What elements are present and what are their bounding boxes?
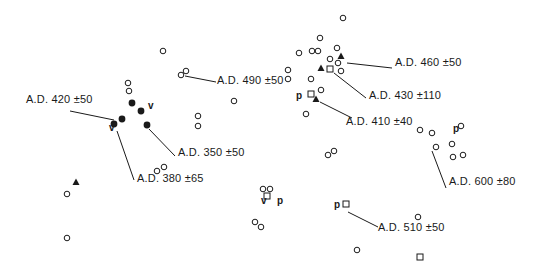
open-circle-icon: [160, 48, 166, 54]
date-label: A.D. 380 ±65: [137, 172, 204, 184]
open-circle-icon: [417, 127, 423, 133]
open-circle-icon: [340, 15, 346, 21]
site-type-letter: v: [109, 123, 115, 133]
leader-line: [334, 73, 366, 98]
leader-line: [149, 129, 175, 156]
open-circle-icon: [309, 48, 315, 54]
open-circle-icon: [195, 123, 201, 129]
open-circle-icon: [429, 130, 435, 136]
open-circle-icon: [317, 35, 323, 41]
leader-line: [70, 111, 114, 120]
site-type-letter: v: [261, 196, 267, 206]
open-square-icon: [417, 254, 423, 260]
open-circle-icon: [460, 152, 466, 158]
filled-circle-icon: [138, 108, 145, 115]
open-square-icon: [327, 66, 333, 72]
open-circle-icon: [327, 56, 333, 62]
open-circle-icon: [315, 48, 321, 54]
site-type-letter: p: [296, 91, 302, 101]
leader-line: [432, 151, 446, 188]
open-circle-icon: [318, 87, 324, 93]
open-circle-icon: [296, 50, 302, 56]
filled-circle-icon: [129, 100, 136, 107]
leader-line: [347, 63, 392, 68]
open-circle-icon: [260, 186, 266, 192]
filled-triangle-icon: [318, 65, 325, 72]
open-circle-icon: [285, 67, 291, 73]
open-circle-icon: [258, 224, 264, 230]
open-circle-icon: [338, 68, 344, 74]
site-type-letter: v: [148, 101, 154, 111]
open-circle-icon: [334, 45, 340, 51]
open-circle-icon: [450, 154, 456, 160]
filled-circle-icon: [119, 116, 126, 123]
open-circle-icon: [161, 164, 167, 170]
date-label: A.D. 490 ±50: [217, 74, 284, 86]
open-circle-icon: [126, 88, 132, 94]
date-label: A.D. 420 ±50: [26, 93, 93, 105]
open-circle-icon: [335, 60, 341, 66]
open-circle-icon: [64, 235, 70, 241]
date-label: A.D. 510 ±50: [378, 221, 445, 233]
open-circle-icon: [267, 186, 273, 192]
date-label: A.D. 410 ±40: [346, 115, 413, 127]
open-circle-icon: [415, 214, 421, 220]
leader-line: [117, 131, 134, 180]
open-circle-icon: [325, 152, 331, 158]
open-circle-icon: [195, 113, 201, 119]
open-circle-icon: [285, 76, 291, 82]
leader-line: [185, 76, 216, 82]
open-circle-icon: [231, 98, 237, 104]
open-circle-icon: [125, 80, 131, 86]
site-map-canvas: [0, 0, 540, 277]
date-label: A.D. 600 ±80: [449, 175, 516, 187]
date-label: A.D. 430 ±110: [369, 89, 441, 101]
date-label: A.D. 350 ±50: [178, 146, 245, 158]
filled-triangle-icon: [338, 53, 345, 60]
site-type-letter: p: [334, 200, 340, 210]
open-circle-icon: [354, 247, 360, 253]
date-label: A.D. 460 ±50: [395, 56, 462, 68]
leader-line: [348, 212, 378, 227]
open-circle-icon: [308, 76, 314, 82]
open-circle-icon: [183, 68, 189, 74]
open-circle-icon: [433, 144, 439, 150]
open-circle-icon: [252, 219, 258, 225]
open-square-icon: [308, 91, 314, 97]
open-circle-icon: [331, 148, 337, 154]
leader-lines: [70, 63, 446, 227]
site-type-letter: p: [453, 124, 459, 134]
open-square-icon: [343, 201, 349, 207]
filled-circle-icon: [144, 122, 151, 129]
open-circle-icon: [178, 72, 184, 78]
filled-triangle-icon: [73, 179, 80, 186]
open-circle-icon: [449, 141, 455, 147]
open-circle-icon: [303, 111, 309, 117]
site-type-letter: p: [277, 196, 283, 206]
open-circle-icon: [64, 191, 70, 197]
